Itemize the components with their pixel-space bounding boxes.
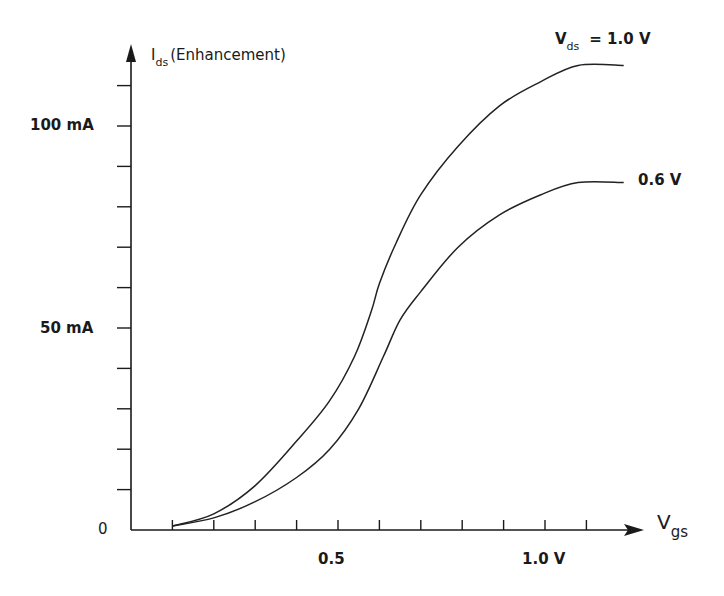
y-axis-label-sub: ds — [155, 56, 168, 69]
series2-label: 0.6 V — [638, 171, 681, 189]
y-tick-label-100: 100 mA — [30, 116, 94, 134]
x-axis-label: Vgs — [657, 510, 688, 534]
curve-vds-1-0 — [172, 64, 623, 526]
curve-vds-0-6 — [172, 182, 623, 526]
y-ticks — [117, 86, 131, 490]
series1-label: Vds= 1.0 V — [555, 30, 651, 48]
y-tick-label-50: 50 mA — [40, 319, 93, 337]
x-axis-label-main: V — [657, 510, 671, 534]
x-tick-label-1-0: 1.0 V — [522, 550, 565, 568]
y-axis-arrow-icon — [126, 44, 136, 62]
chart-canvas — [0, 0, 724, 596]
series1-label-suffix: = 1.0 V — [589, 30, 650, 48]
series1-label-sub: ds — [567, 40, 580, 53]
x-tick-label-0-5: 0.5 — [318, 550, 345, 568]
y-tick-label-0: 0 — [98, 520, 108, 538]
y-axis-label: Ids(Enhancement) — [151, 46, 286, 64]
y-axis-label-suffix: (Enhancement) — [170, 46, 286, 64]
axes — [131, 52, 634, 530]
series1-label-main: V — [555, 30, 567, 48]
x-ticks — [172, 520, 586, 530]
x-axis-label-sub: gs — [671, 523, 688, 541]
